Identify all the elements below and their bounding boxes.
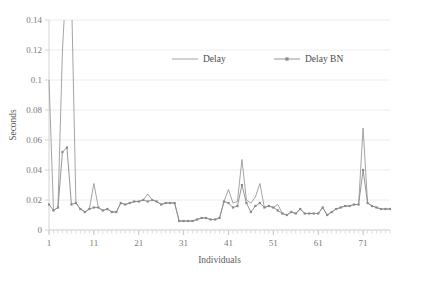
- series-2-marker-13: [106, 208, 108, 210]
- series-2-marker-66: [344, 205, 346, 207]
- series-2-marker-38: [218, 217, 220, 219]
- y-tick-label-2: 0.04: [26, 165, 42, 175]
- series-2-marker-25: [160, 203, 162, 205]
- series-2-marker-31: [187, 220, 189, 222]
- x-tick-label-6: 61: [314, 238, 323, 248]
- series-2-marker-21: [142, 199, 144, 201]
- series-2-marker-19: [133, 200, 135, 202]
- series-2-marker-17: [124, 203, 126, 205]
- series-2-marker-47: [259, 202, 261, 204]
- series-2-marker-8: [84, 211, 86, 213]
- chart-canvas: 00.020.040.060.080.10.120.14111213141516…: [0, 0, 421, 283]
- series-2-marker-10: [93, 206, 95, 208]
- legend-label-2: Delay BN: [305, 54, 343, 64]
- series-2-marker-11: [97, 206, 99, 208]
- series-2-marker-20: [138, 200, 140, 202]
- series-2-marker-63: [331, 211, 333, 213]
- series-2-marker-26: [165, 202, 167, 204]
- x-tick-label-0: 1: [47, 238, 52, 248]
- y-axis-title: Seconds: [8, 109, 18, 141]
- legend: DelayDelay BN: [172, 54, 343, 64]
- series-2-marker-3: [61, 151, 63, 153]
- series-2-marker-70: [362, 169, 364, 171]
- series-2-marker-27: [169, 202, 171, 204]
- series-2-marker-34: [200, 217, 202, 219]
- x-tick-label-4: 41: [224, 238, 233, 248]
- series-2-marker-7: [79, 208, 81, 210]
- legend-swatch-marker-2: [285, 57, 288, 60]
- series-2-marker-30: [183, 220, 185, 222]
- series-2-marker-1: [52, 209, 54, 211]
- series-line-2: [49, 148, 390, 222]
- y-axis: 00.020.040.060.080.10.120.14: [26, 15, 49, 235]
- series-2-marker-39: [223, 200, 225, 202]
- series-2-marker-36: [209, 218, 211, 220]
- y-tick-label-0: 0: [38, 225, 43, 235]
- x-tick-label-7: 71: [359, 238, 368, 248]
- series-2-marker-23: [151, 199, 153, 201]
- y-tick-label-7: 0.14: [26, 15, 42, 25]
- series-2-marker-28: [174, 202, 176, 204]
- line-chart: 00.020.040.060.080.10.120.14111213141516…: [0, 0, 421, 283]
- series-2-marker-67: [349, 205, 351, 207]
- series-delay-bn: [48, 146, 391, 222]
- y-tick-label-3: 0.06: [26, 135, 42, 145]
- series-2-marker-71: [366, 202, 368, 204]
- series-2-marker-59: [313, 212, 315, 214]
- series-2-marker-22: [147, 200, 149, 202]
- series-2-marker-58: [308, 212, 310, 214]
- series-2-marker-68: [353, 203, 355, 205]
- x-axis-title: Individuals: [198, 255, 241, 265]
- series-2-marker-18: [129, 202, 131, 204]
- series-2-marker-51: [277, 209, 279, 211]
- series-2-marker-73: [375, 206, 377, 208]
- series-2-marker-64: [335, 208, 337, 210]
- series-2-marker-49: [268, 205, 270, 207]
- y-tick-label-4: 0.08: [26, 105, 42, 115]
- series-2-marker-54: [290, 211, 292, 213]
- series-2-marker-65: [340, 206, 342, 208]
- series-2-marker-24: [156, 200, 158, 202]
- series-2-marker-57: [304, 212, 306, 214]
- series-2-marker-72: [371, 205, 373, 207]
- series-2-marker-6: [75, 202, 77, 204]
- series-2-marker-62: [326, 214, 328, 216]
- series-2-marker-61: [322, 206, 324, 208]
- series-2-marker-50: [272, 206, 274, 208]
- series-2-marker-52: [281, 212, 283, 214]
- series-2-marker-4: [66, 146, 68, 148]
- series-2-marker-53: [286, 214, 288, 216]
- x-tick-label-3: 31: [179, 238, 188, 248]
- series-2-marker-43: [241, 184, 243, 186]
- series-2-marker-16: [120, 202, 122, 204]
- axis-titles: IndividualsSeconds: [8, 109, 241, 265]
- series-2-marker-69: [357, 203, 359, 205]
- series-2-marker-35: [205, 217, 207, 219]
- series-2-marker-15: [115, 211, 117, 213]
- series-2-marker-37: [214, 218, 216, 220]
- y-tick-label-6: 0.12: [26, 45, 42, 55]
- series-2-marker-74: [380, 208, 382, 210]
- gridlines: [49, 20, 390, 230]
- series-2-marker-5: [70, 203, 72, 205]
- series-2-marker-60: [317, 212, 319, 214]
- series-2-marker-40: [227, 202, 229, 204]
- series-2-marker-45: [250, 211, 252, 213]
- series-2-marker-48: [263, 206, 265, 208]
- series-2-marker-9: [88, 208, 90, 210]
- series-2-marker-55: [295, 212, 297, 214]
- series-2-marker-33: [196, 218, 198, 220]
- series-2-marker-44: [245, 202, 247, 204]
- series-2-marker-0: [48, 203, 50, 205]
- series-2-marker-75: [384, 208, 386, 210]
- series-2-marker-2: [57, 206, 59, 208]
- series-2-marker-46: [254, 205, 256, 207]
- x-tick-label-5: 51: [269, 238, 278, 248]
- series-2-marker-42: [236, 205, 238, 207]
- series-2-marker-41: [232, 206, 234, 208]
- series-2-marker-29: [178, 220, 180, 222]
- series-2-marker-56: [299, 208, 301, 210]
- y-tick-label-5: 0.1: [31, 75, 42, 85]
- series-2-marker-76: [389, 208, 391, 210]
- series-2-marker-32: [191, 220, 193, 222]
